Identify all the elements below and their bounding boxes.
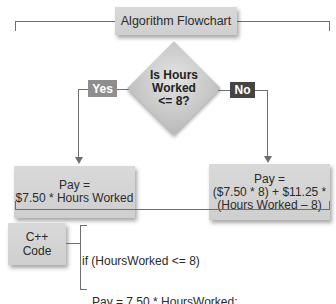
frame-top-right-line <box>237 21 330 22</box>
no-label: No <box>230 82 255 98</box>
frame-top-left-line <box>15 21 115 22</box>
code-connector-line <box>66 243 80 244</box>
code-bracket-top <box>80 225 87 226</box>
code-line-1: if (HoursWorked <= 8) <box>82 255 334 269</box>
yes-result-box: Pay = $7.50 * Hours Worked <box>14 166 135 218</box>
decision-node: Is Hours Worked <= 8? <box>131 45 217 131</box>
code-bracket-vertical <box>80 225 81 290</box>
no-result-line-2: ($7.50 * 8) + $11.25 * <box>213 186 327 199</box>
code-line-2: Pay = 7.50 * HoursWorked; <box>82 296 334 304</box>
no-branch-vertical-line <box>267 90 268 156</box>
decision-line-2: Worked <box>150 82 198 95</box>
cpp-code-label-box: C++ Code <box>8 223 66 265</box>
decision-text: Is Hours Worked <= 8? <box>131 45 217 131</box>
decision-line-1: Is Hours <box>150 69 198 82</box>
flowchart-title-box: Algorithm Flowchart <box>115 7 237 35</box>
cpp-code-block: if (HoursWorked <= 8) Pay = 7.50 * Hours… <box>82 228 334 304</box>
frame-bottom-line <box>15 209 330 210</box>
no-result-box: Pay = ($7.50 * 8) + $11.25 * (Hours Work… <box>209 164 330 220</box>
yes-result-line-2: $7.50 * Hours Worked <box>16 192 134 205</box>
frame-bottom-right-tick <box>329 201 330 210</box>
decision-line-3: <= 8? <box>150 95 198 108</box>
code-label-line-1: C++ <box>23 230 52 244</box>
no-arrow-icon <box>264 156 272 163</box>
yes-label: Yes <box>88 80 117 97</box>
no-result-line-1: Pay = <box>213 173 327 186</box>
yes-branch-vertical-line <box>78 89 79 157</box>
flowchart-title: Algorithm Flowchart <box>121 15 231 28</box>
yes-arrow-icon <box>75 157 83 164</box>
frame-left-tick <box>15 21 16 31</box>
frame-bottom-left-tick <box>15 201 16 210</box>
frame-right-tick <box>329 21 330 31</box>
code-label-line-2: Code <box>23 244 52 258</box>
